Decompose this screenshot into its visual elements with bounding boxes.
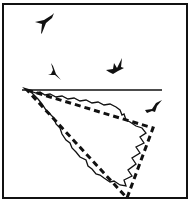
bird-icon <box>106 58 124 74</box>
jagged-triangle <box>30 91 146 186</box>
bird-icon <box>35 13 54 34</box>
figure-drawing <box>0 0 194 203</box>
bird-icon <box>48 63 61 80</box>
bird-icon <box>145 100 162 113</box>
dashed-triangle <box>27 90 153 198</box>
